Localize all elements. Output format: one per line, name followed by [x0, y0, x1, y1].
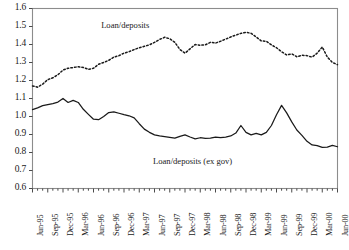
x-axis-tick-label: Sep-95 — [51, 213, 60, 235]
x-axis-tick-label: Mar-98 — [203, 212, 212, 236]
x-axis-tick-label: Sep-98 — [234, 213, 243, 235]
x-axis-tick-label: Jun-98 — [219, 214, 228, 235]
x-axis-tick-label: Dec-95 — [66, 212, 75, 235]
y-axis-tick-label: 0.8 — [0, 146, 26, 156]
y-axis-tick-label: 1.1 — [0, 92, 26, 102]
x-axis-tick-label: Mar-00 — [325, 212, 334, 236]
x-axis-tick-label: Mar-99 — [264, 212, 273, 236]
x-axis-tick-label: Dec-97 — [188, 212, 197, 235]
series-annotation-label: Loan/deposits (ex gov) — [153, 156, 232, 166]
y-axis-tick-label: 1.6 — [0, 2, 26, 12]
x-axis-tick-label: Mar-97 — [142, 212, 151, 236]
chart-container: 1.61.51.41.31.21.11.00.90.80.70.6 Jun-95… — [0, 0, 349, 250]
x-axis-tick-label: Mar-96 — [81, 212, 90, 236]
x-axis-tick-label: Sep-99 — [295, 213, 304, 235]
x-axis-tick-label: Sep-96 — [112, 213, 121, 235]
x-axis-tick-label: Dec-98 — [249, 212, 258, 235]
x-axis-tick-label: Jun-99 — [280, 214, 289, 235]
y-axis-tick-label: 1.2 — [0, 74, 26, 84]
chart-plot — [0, 0, 349, 250]
series-annotation-label: Loan/deposits — [101, 20, 149, 30]
series-line-2 — [33, 99, 338, 148]
series-line-1 — [33, 32, 338, 87]
x-axis-tick-label: Jun-97 — [158, 214, 167, 235]
y-axis-tick-label: 0.9 — [0, 128, 26, 138]
x-axis-tick-label: Dec-96 — [127, 212, 136, 235]
y-axis-tick-label: 1.0 — [0, 110, 26, 120]
x-axis-tick-label: Jun-95 — [36, 214, 45, 235]
x-axis-ticks — [33, 189, 338, 193]
x-axis-tick-label: Jun-00 — [341, 214, 349, 235]
y-axis-tick-label: 1.5 — [0, 20, 26, 30]
y-axis-tick-label: 0.6 — [0, 182, 26, 192]
x-axis-tick-label: Dec-99 — [310, 212, 319, 235]
x-axis-tick-label: Sep-97 — [173, 213, 182, 235]
y-axis-tick-label: 1.3 — [0, 56, 26, 66]
x-axis-tick-label: Jun-96 — [97, 214, 106, 235]
y-axis-tick-label: 1.4 — [0, 38, 26, 48]
y-axis-tick-label: 0.7 — [0, 164, 26, 174]
